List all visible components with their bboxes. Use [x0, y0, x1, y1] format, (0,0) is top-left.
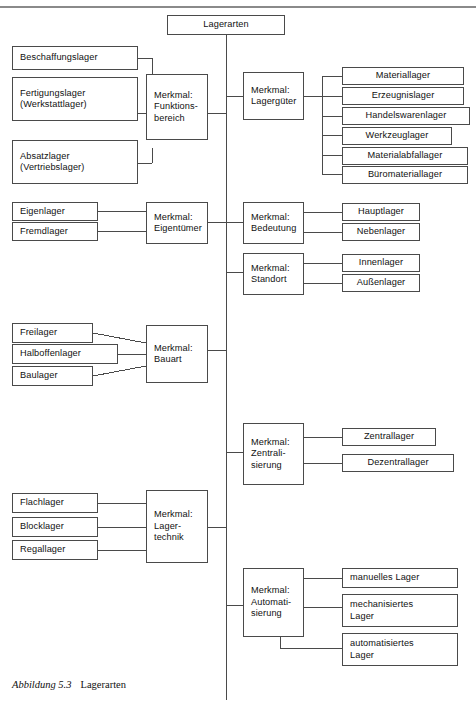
hub-eigentumer[interactable]: Merkmal: Eigentümer — [146, 202, 208, 244]
node-fertigungslager[interactable]: Fertigungslager (Werkstattlager) — [12, 77, 138, 121]
figure-caption: Abbildung 5.3Lagerarten — [12, 679, 126, 690]
figure-caption-title: Lagerarten — [72, 679, 126, 690]
node-zentrallager[interactable]: Zentrallager — [342, 428, 436, 446]
node-hauptlager[interactable]: Hauptlager — [342, 203, 420, 221]
node-werkzeuglager[interactable]: Werkzeuglager — [342, 127, 452, 145]
node-baulager[interactable]: Baulager — [12, 366, 93, 386]
node-root[interactable]: Lagerarten — [167, 15, 285, 35]
node-aussenlager[interactable]: Außenlager — [342, 274, 420, 292]
node-fremdlager[interactable]: Fremdlager — [12, 222, 98, 241]
node-blocklager[interactable]: Blocklager — [12, 517, 98, 537]
hub-automatisierung[interactable]: Merkmal: Automati- sierung — [243, 568, 304, 637]
hub-lagertechnik[interactable]: Merkmal: Lager- technik — [146, 490, 208, 563]
hub-funktionsbereich[interactable]: Merkmal: Funktions- bereich — [146, 74, 208, 140]
node-materiallager[interactable]: Materiallager — [342, 67, 464, 85]
node-innenlager[interactable]: Innenlager — [342, 254, 420, 272]
header-rule — [0, 6, 476, 8]
node-materialabfallager[interactable]: Materialabfallager — [342, 147, 468, 165]
node-buromateriallager[interactable]: Büromateriallager — [342, 166, 468, 184]
node-flachlager[interactable]: Flachlager — [12, 493, 98, 513]
node-mechanisiertes-lager[interactable]: mechanisiertes Lager — [342, 594, 458, 627]
figure-caption-number: Abbildung 5.3 — [12, 679, 72, 690]
node-manuelles-lager[interactable]: manuelles Lager — [342, 568, 458, 588]
node-absatzlager[interactable]: Absatzlager (Vertriebslager) — [12, 140, 138, 184]
node-erzeugnislager[interactable]: Erzeugnislager — [342, 87, 464, 105]
hub-bauart[interactable]: Merkmal: Bauart — [146, 325, 208, 383]
node-handelswarenlager[interactable]: Handelswarenlager — [342, 107, 470, 125]
node-freilager[interactable]: Freilager — [12, 323, 93, 343]
hub-standort[interactable]: Merkmal: Standort — [243, 253, 304, 295]
node-halboffenlager[interactable]: Halboffenlager — [12, 344, 118, 364]
node-beschaffungslager[interactable]: Beschaffungslager — [12, 46, 138, 70]
hub-zentralisierung[interactable]: Merkmal: Zentrali- sierung — [243, 423, 304, 485]
node-eigenlager[interactable]: Eigenlager — [12, 202, 98, 221]
node-automatisiertes-lager[interactable]: automatisiertes Lager — [342, 633, 458, 666]
figure-canvas: Lagerarten Beschaffungslager Fertigungsl… — [0, 0, 476, 711]
node-nebenlager[interactable]: Nebenlager — [342, 223, 420, 241]
node-regallager[interactable]: Regallager — [12, 540, 98, 560]
node-dezentrallager[interactable]: Dezentrallager — [342, 454, 454, 472]
hub-lagerguter[interactable]: Merkmal: Lagergüter — [243, 72, 304, 120]
hub-bedeutung[interactable]: Merkmal: Bedeutung — [243, 202, 304, 244]
